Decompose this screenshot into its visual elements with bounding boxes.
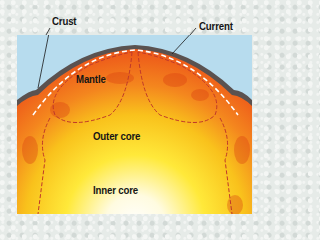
outer-core-label: Outer core — [93, 130, 140, 142]
crust-label: Crust — [52, 15, 76, 27]
inner-core-label: Inner core — [93, 184, 138, 196]
earth-convection-diagram — [0, 0, 270, 231]
current-label: Current — [199, 20, 233, 32]
mantle-label: Mantle — [76, 73, 106, 85]
